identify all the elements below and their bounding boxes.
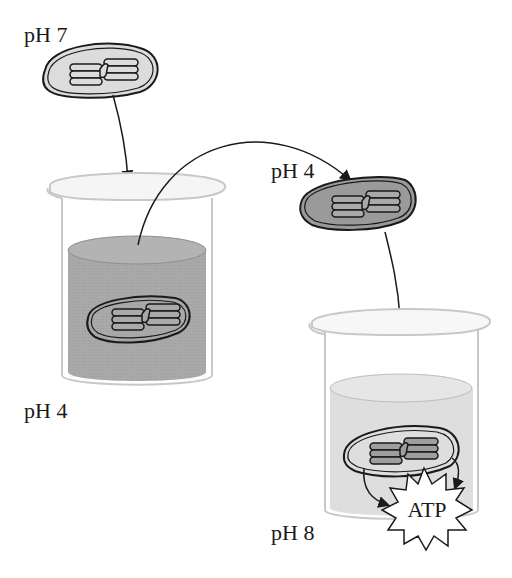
arrow-to-beaker-ph8	[385, 232, 400, 318]
beaker-ph4	[47, 173, 225, 385]
beaker-ph8: ATP	[309, 309, 490, 550]
label-beaker2-ph: pH 8	[271, 520, 314, 545]
atp-label: ATP	[407, 497, 446, 522]
label-equilibrated-ph: pH 4	[271, 158, 314, 183]
arrow-to-beaker-ph4	[113, 95, 128, 180]
label-initial-ph: pH 7	[24, 22, 67, 47]
chloroplast-ph7	[43, 44, 158, 98]
chloroplast-ph4	[300, 177, 416, 230]
chemiosmosis-diagram: pH 7 pH 4 pH 4	[0, 0, 512, 578]
label-beaker1-ph: pH 4	[24, 398, 67, 423]
